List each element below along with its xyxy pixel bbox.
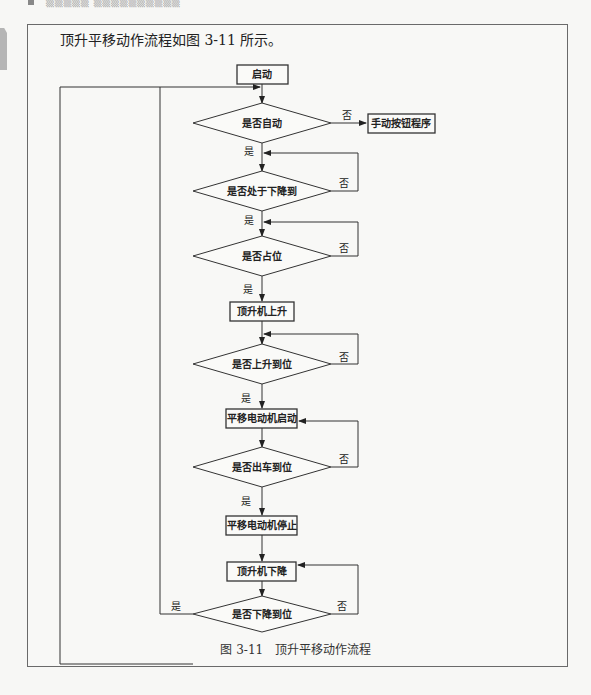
- label-down-pos: 是否处于下降到: [226, 185, 297, 197]
- flowchart: 启动 是否自动 手动按钮程序 是否处于下降到 是否占位 顶升机上升 是否上升到位…: [0, 0, 591, 695]
- edge-label-no: 否: [339, 178, 349, 189]
- edge-label-yes: 是: [241, 496, 251, 507]
- edge-label-yes: 是: [241, 393, 251, 404]
- label-occupied: 是否占位: [241, 250, 282, 262]
- edge-label-no: 否: [339, 352, 349, 363]
- figure-caption: 图 3-11 顶升平移动作流程: [0, 640, 591, 657]
- label-down-done: 是否下降到位: [231, 608, 292, 620]
- edge-label-yes: 是: [171, 601, 181, 612]
- edge-label-yes: 是: [244, 215, 254, 226]
- edge-label-yes: 是: [244, 146, 254, 157]
- edge-label-no: 否: [339, 454, 349, 465]
- label-start: 启动: [252, 68, 272, 80]
- label-lift-down: 顶升机下降: [237, 565, 288, 577]
- label-up-done: 是否上升到位: [231, 358, 292, 370]
- label-motor-stop: 平移电动机停止: [227, 519, 297, 531]
- edge-label-no: 否: [339, 243, 349, 254]
- edge-label-no: 否: [337, 601, 347, 612]
- label-motor-start: 平移电动机启动: [227, 412, 297, 424]
- label-manual: 手动按钮程序: [371, 117, 431, 129]
- edge-label-no: 否: [342, 110, 352, 121]
- edge-label-yes: 是: [243, 284, 253, 295]
- label-lift-up: 顶升机上升: [237, 305, 287, 317]
- label-auto: 是否自动: [241, 117, 282, 129]
- label-car-out: 是否出车到位: [231, 461, 292, 473]
